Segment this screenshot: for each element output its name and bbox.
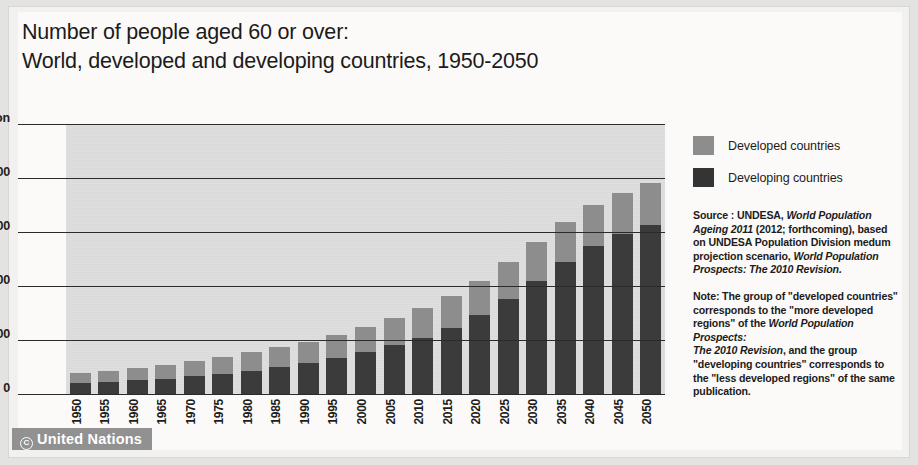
bar-2020 [469, 281, 490, 395]
bar-segment-developing [355, 352, 376, 395]
bar-segment-developing [555, 262, 576, 395]
x-axis-label-2045: 2045 [612, 399, 633, 425]
bar-2045 [612, 193, 633, 395]
bar-segment-developed [241, 352, 262, 370]
y-axis-tick-label: 2,500 million [0, 111, 10, 125]
bar-2005 [384, 318, 405, 395]
bar-1975 [212, 357, 233, 395]
bar-2025 [498, 262, 519, 395]
bar-segment-developing [441, 328, 462, 395]
bar-segment-developing [127, 380, 148, 395]
source-l4a: projection scenario, [693, 250, 793, 262]
bar-segment-developed [298, 342, 319, 363]
bar-segment-developing [412, 338, 433, 395]
note-l4b: , and the group [783, 344, 857, 356]
note-l7: publication. [693, 385, 751, 397]
y-axis-tick-label: 0 [3, 381, 10, 395]
x-axis-label-1970: 1970 [184, 399, 205, 425]
bar-segment-developed [526, 242, 547, 280]
x-axis-label-2040: 2040 [583, 399, 604, 425]
legend-item-developing: Developing countries [693, 168, 899, 187]
legend-item-developed: Developed countries [693, 136, 899, 155]
explanatory-note: Note: The group of "developed countries"… [693, 290, 899, 399]
source-l1a: Source : UNDESA, [693, 209, 786, 221]
bar-segment-developed [441, 296, 462, 328]
bar-1960 [127, 368, 148, 395]
x-axis-label-1980: 1980 [241, 399, 262, 425]
note-l6: the "less developed regions" of the same [693, 372, 895, 384]
bar-1970 [184, 361, 205, 395]
bar-segment-developed [70, 373, 91, 383]
bar-segment-developed [384, 318, 405, 345]
y-axis-tick-label: 1,000 [0, 273, 10, 287]
bar-segment-developing [184, 376, 205, 395]
y-axis-tick-label: 2,000 [0, 165, 10, 179]
note-l3a: regions" of the [693, 317, 769, 329]
copyright-icon: C [20, 437, 33, 450]
bar-segment-developing [640, 225, 661, 395]
x-axis-label-2015: 2015 [441, 399, 462, 425]
legend-label-developing: Developing countries [728, 171, 843, 185]
bar-series-container [66, 125, 665, 395]
x-axis-label-1990: 1990 [298, 399, 319, 425]
bar-segment-developed [412, 308, 433, 337]
bar-1985 [269, 347, 290, 395]
bar-segment-developed [612, 193, 633, 235]
x-axis-label-1965: 1965 [155, 399, 176, 425]
x-axis-label-2025: 2025 [498, 399, 519, 425]
chart-side-panel: Developed countries Developing countries… [693, 136, 899, 399]
bar-1965 [155, 365, 176, 395]
bar-segment-developed [640, 183, 661, 225]
bar-1980 [241, 352, 262, 395]
bar-segment-developing [384, 345, 405, 395]
x-axis-label-2050: 2050 [640, 399, 661, 425]
bar-2010 [412, 308, 433, 395]
x-axis-label-1950: 1950 [70, 399, 91, 425]
x-axis-label-2030: 2030 [526, 399, 547, 425]
bar-segment-developing [212, 374, 233, 395]
bar-segment-developing [583, 246, 604, 395]
source-note: Source : UNDESA, World Population Ageing… [693, 209, 899, 277]
bar-segment-developed [184, 361, 205, 376]
x-axis-label-1960: 1960 [127, 399, 148, 425]
gridline-500: 500 [18, 340, 665, 341]
bar-2040 [583, 205, 604, 395]
bar-segment-developing [612, 234, 633, 395]
note-l4a: The 2010 Revision [693, 344, 783, 356]
note-l5: "developing countries" corresponds to [693, 358, 884, 370]
legend-swatch-developing-icon [693, 168, 714, 187]
bar-segment-developed [155, 365, 176, 379]
bar-segment-developing [155, 379, 176, 395]
gridline-1000: 1,000 [18, 286, 665, 287]
gridline-0: 0 [18, 394, 665, 395]
source-l2a: Ageing 2011 [693, 223, 753, 235]
bar-1990 [298, 342, 319, 395]
bar-1995 [326, 335, 347, 395]
source-l4b: World Population [793, 250, 878, 262]
bar-2015 [441, 296, 462, 395]
bar-segment-developed [127, 368, 148, 381]
x-axis-label-2035: 2035 [555, 399, 576, 425]
legend-label-developed: Developed countries [728, 139, 840, 153]
bar-segment-developed [498, 262, 519, 299]
gridline-2500: 2,500 million [18, 124, 665, 125]
x-axis-label-1975: 1975 [212, 399, 233, 425]
bar-1955 [98, 371, 119, 395]
bar-2035 [555, 222, 576, 395]
bar-segment-developed [212, 357, 233, 374]
gridline-2000: 2,000 [18, 178, 665, 179]
watermark-united-nations: CUnited Nations [12, 428, 152, 450]
source-l2b: (2012; forthcoming), based [753, 223, 887, 235]
bar-segment-developing [298, 363, 319, 395]
x-axis-label-2000: 2000 [355, 399, 376, 425]
bar-segment-developed [326, 335, 347, 358]
y-axis-tick-label: 500 [0, 327, 10, 341]
bar-2000 [355, 327, 376, 395]
x-axis-label-2020: 2020 [469, 399, 490, 425]
note-l2: corresponds to the "more developed [693, 304, 873, 316]
x-axis-label-2010: 2010 [412, 399, 433, 425]
plot-area: 05001,0001,5002,0002,500 million [66, 125, 665, 395]
bar-segment-developing [269, 367, 290, 395]
bar-segment-developing [469, 315, 490, 395]
watermark-text: United Nations [37, 431, 142, 447]
